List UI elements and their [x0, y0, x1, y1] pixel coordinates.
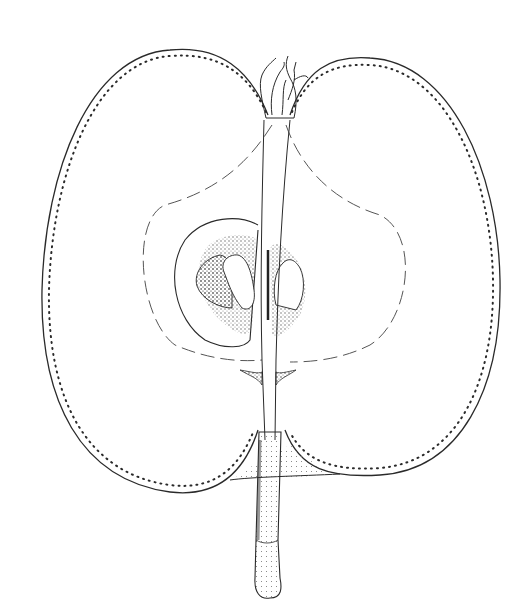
calyx	[260, 56, 308, 118]
illustration-canvas	[0, 0, 526, 611]
junction-flare	[240, 370, 296, 385]
pear-cross-section-drawing	[0, 0, 526, 611]
right-lobe-outline	[285, 58, 500, 476]
